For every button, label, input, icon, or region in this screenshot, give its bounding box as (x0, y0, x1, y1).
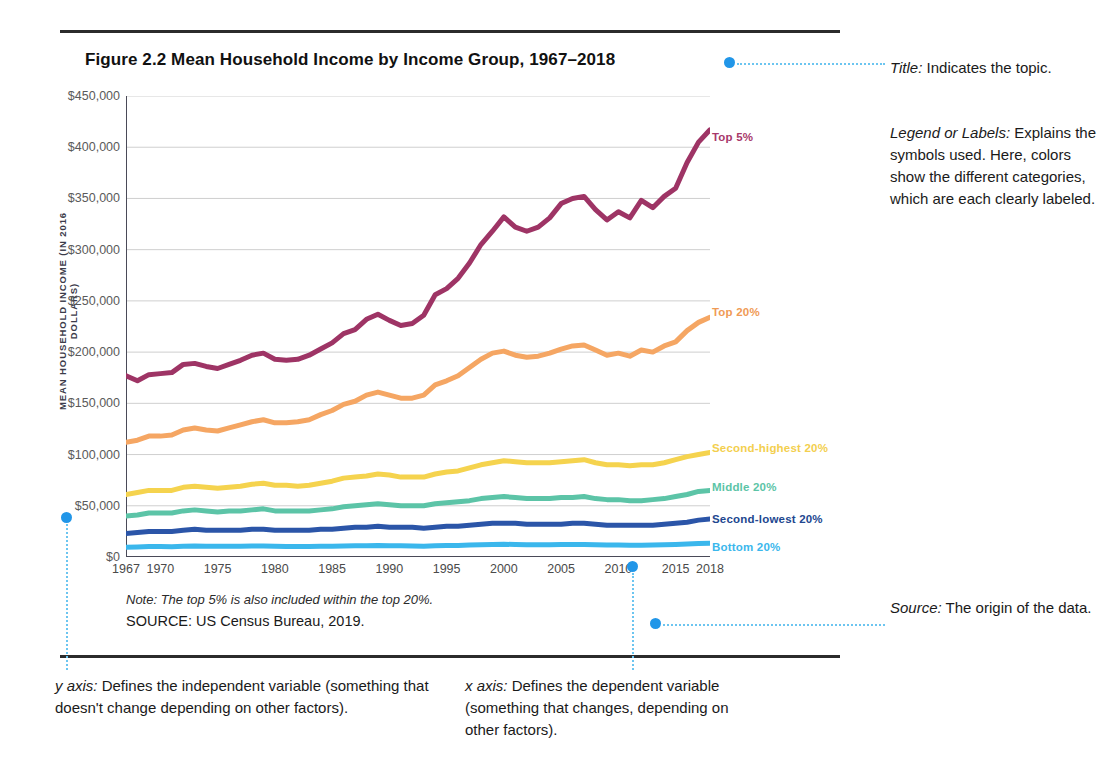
y-tick-label: $450,000 (68, 89, 120, 103)
callout-line-x-axis (632, 573, 634, 670)
x-tick-label: 1980 (261, 562, 289, 576)
annotation-source: Source: The origin of the data. (890, 597, 1105, 619)
y-tick-label: $100,000 (68, 448, 120, 462)
annotation-x-axis: x axis: Defines the dependent variable (… (465, 675, 765, 741)
series-labels: Top 5%Top 20%Second-highest 20%Middle 20… (712, 96, 862, 566)
y-axis-tick-labels: $0$50,000$100,000$150,000$200,000$250,00… (0, 96, 120, 557)
y-tick-label: $200,000 (68, 345, 120, 359)
x-tick-label: 1985 (318, 562, 346, 576)
annotation-legend: Legend or Labels: Explains the symbols u… (890, 122, 1105, 210)
series-line-second-highest-20 (126, 453, 710, 495)
x-tick-label: 2015 (662, 562, 690, 576)
callout-dot-title (724, 57, 735, 68)
x-tick-label: 2005 (547, 562, 575, 576)
figure-container: Figure 2.2 Mean Household Income by Inco… (0, 0, 860, 655)
annotation-y-axis: y axis: Defines the independent variable… (55, 675, 445, 719)
x-tick-label: 1975 (204, 562, 232, 576)
series-label-second-lowest-20: Second-lowest 20% (712, 513, 823, 525)
plot-area (126, 96, 710, 557)
x-tick-label: 1990 (375, 562, 403, 576)
callout-dot-source (650, 618, 661, 629)
series-line-top-20 (126, 317, 710, 442)
series-line-middle-20 (126, 490, 710, 516)
annotation-source-body: The origin of the data. (942, 599, 1092, 616)
figure-note: Note: The top 5% is also included within… (126, 592, 433, 607)
y-tick-label: $300,000 (68, 243, 120, 257)
callout-line-y-axis (66, 524, 68, 670)
annotation-title: Title: Indicates the topic. (890, 57, 1105, 79)
x-tick-label: 1970 (146, 562, 174, 576)
bottom-divider-rule (60, 655, 840, 658)
callout-dot-y-axis (61, 512, 72, 523)
annotation-legend-label: Legend or Labels: (890, 124, 1010, 141)
series-label-bottom-20: Bottom 20% (712, 541, 780, 553)
callout-dot-x-axis (627, 561, 638, 572)
x-tick-label: 2000 (490, 562, 518, 576)
series-label-top-5: Top 5% (712, 131, 753, 143)
annotation-source-label: Source: (890, 599, 942, 616)
x-tick-label: 1995 (433, 562, 461, 576)
series-label-second-highest-20: Second-highest 20% (712, 442, 828, 454)
y-tick-label: $50,000 (75, 499, 120, 513)
annotation-x-axis-label: x axis: (465, 677, 508, 694)
series-line-second-lowest-20 (126, 519, 710, 533)
callout-line-source (663, 624, 885, 626)
x-axis-tick-labels: 1967197019751980198519901995200020052010… (126, 562, 710, 584)
series-label-middle-20: Middle 20% (712, 481, 777, 493)
series-line-bottom-20 (126, 543, 710, 547)
annotation-y-axis-body: Defines the independent variable (someth… (55, 677, 429, 716)
x-tick-label: 1967 (112, 562, 140, 576)
annotation-y-axis-label: y axis: (55, 677, 98, 694)
y-tick-label: $150,000 (68, 396, 120, 410)
annotation-title-label: Title: (890, 59, 922, 76)
callout-line-title (737, 63, 885, 65)
figure-title: Figure 2.2 Mean Household Income by Inco… (85, 50, 615, 70)
figure-source: SOURCE: US Census Bureau, 2019. (126, 613, 365, 629)
y-tick-label: $250,000 (68, 294, 120, 308)
y-tick-label: $350,000 (68, 191, 120, 205)
series-label-top-20: Top 20% (712, 306, 760, 318)
chart-svg (126, 96, 710, 557)
series-line-top-5 (126, 130, 710, 381)
y-tick-label: $400,000 (68, 140, 120, 154)
annotation-title-body: Indicates the topic. (922, 59, 1051, 76)
